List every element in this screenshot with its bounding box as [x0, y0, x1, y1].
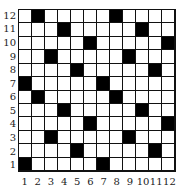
grid-cell — [162, 158, 175, 171]
grid-cell — [97, 10, 110, 23]
column-label: 11 — [150, 177, 163, 187]
grid-cell — [84, 77, 97, 90]
grid-cell — [97, 77, 110, 90]
grid-cell — [97, 104, 110, 117]
grid-cell — [19, 144, 32, 157]
grid-cell — [149, 77, 162, 90]
grid-cell — [97, 50, 110, 63]
grid-cell — [123, 104, 136, 117]
grid-cell — [162, 50, 175, 63]
grid-cell — [123, 37, 136, 50]
row-label: 9 — [0, 52, 16, 62]
grid-cell — [136, 64, 149, 77]
grid-cell — [136, 117, 149, 130]
row-label: 3 — [0, 133, 16, 143]
grid-cell — [149, 37, 162, 50]
column-label: 1 — [18, 177, 31, 187]
grid-cell — [162, 104, 175, 117]
grid-cell — [19, 10, 32, 23]
grid-cell — [84, 144, 97, 157]
row-label: 4 — [0, 119, 16, 129]
grid-cell — [19, 37, 32, 50]
grid-cell — [19, 158, 32, 171]
grid-cell — [45, 158, 58, 171]
row-label: 6 — [0, 92, 16, 102]
column-label: 3 — [44, 177, 57, 187]
grid-cell — [32, 23, 45, 36]
grid-cell — [45, 10, 58, 23]
row-label: 8 — [0, 65, 16, 75]
grid-cell — [32, 37, 45, 50]
row-label: 5 — [0, 106, 16, 116]
grid-cell — [84, 117, 97, 130]
grid-cell — [149, 104, 162, 117]
grid-cell — [97, 64, 110, 77]
grid-cell — [149, 131, 162, 144]
grid-cell — [136, 10, 149, 23]
grid-cell — [58, 104, 71, 117]
grid-cell — [149, 64, 162, 77]
grid-cell — [71, 50, 84, 63]
grid-cell — [71, 64, 84, 77]
grid-cell — [84, 50, 97, 63]
grid-cell — [84, 23, 97, 36]
grid-cell — [162, 10, 175, 23]
grid-cell — [162, 131, 175, 144]
grid-cell — [71, 117, 84, 130]
grid-cell — [19, 50, 32, 63]
grid-cell — [136, 37, 149, 50]
row-label: 12 — [0, 11, 16, 21]
grid-cell — [123, 117, 136, 130]
grid-cell — [71, 77, 84, 90]
grid-cell — [32, 158, 45, 171]
column-label: 8 — [110, 177, 123, 187]
column-label: 5 — [71, 177, 84, 187]
grid-cell — [71, 10, 84, 23]
grid-cell — [123, 10, 136, 23]
grid-cell — [123, 131, 136, 144]
grid-cell — [58, 91, 71, 104]
grid-cell — [110, 144, 123, 157]
grid-cell — [19, 91, 32, 104]
grid-cell — [45, 23, 58, 36]
grid-cell — [149, 158, 162, 171]
row-label: 10 — [0, 38, 16, 48]
grid-cell — [162, 117, 175, 130]
grid-cell — [97, 37, 110, 50]
chessboard-grid — [18, 9, 176, 172]
column-label: 9 — [123, 177, 136, 187]
grid-cell — [136, 91, 149, 104]
grid-cell — [97, 117, 110, 130]
grid-cell — [45, 144, 58, 157]
grid-cell — [71, 131, 84, 144]
grid-cell — [84, 104, 97, 117]
grid-cell — [110, 64, 123, 77]
grid-cell — [149, 50, 162, 63]
grid-cell — [71, 158, 84, 171]
grid-cell — [19, 23, 32, 36]
grid-cell — [123, 91, 136, 104]
grid-cell — [110, 104, 123, 117]
grid-cell — [162, 91, 175, 104]
grid-cell — [84, 158, 97, 171]
grid-cell — [97, 144, 110, 157]
grid-cell — [71, 91, 84, 104]
grid-cell — [136, 50, 149, 63]
column-label: 10 — [137, 177, 150, 187]
grid-cell — [32, 144, 45, 157]
grid-cell — [32, 131, 45, 144]
grid-cell — [136, 144, 149, 157]
grid-cell — [123, 64, 136, 77]
grid-cell — [32, 50, 45, 63]
grid-cell — [123, 158, 136, 171]
row-label: 2 — [0, 147, 16, 157]
grid-cell — [45, 91, 58, 104]
grid-cell — [149, 91, 162, 104]
grid-cell — [45, 37, 58, 50]
grid-cell — [84, 37, 97, 50]
grid-cell — [58, 77, 71, 90]
column-label: 12 — [163, 177, 176, 187]
grid-cell — [58, 10, 71, 23]
grid-cell — [45, 64, 58, 77]
grid-cell — [123, 23, 136, 36]
